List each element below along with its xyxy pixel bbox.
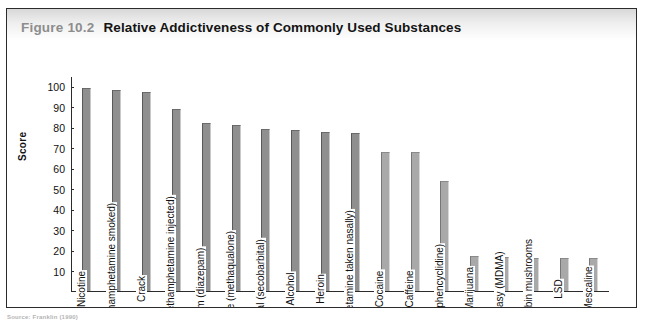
x-tick-label: Heroin [315,273,326,304]
bar-slot: Cocaine [370,77,400,291]
bar-slot: PCP (phencyclidine) [430,77,460,291]
x-tick-label: Alcohol [285,272,296,307]
y-tick-60: 60 [53,163,71,175]
x-tick-label: Ecstasy (MDMA) [494,251,505,309]
y-tick-80: 80 [53,122,71,134]
bar-slot: Heroin [311,77,341,291]
x-tick-label: Crack [136,275,147,303]
bar [142,92,151,291]
bar-slot: LSD [549,77,579,291]
y-tick-30: 30 [53,225,71,237]
bar-slot: Caffeine [400,77,430,291]
source-note: Source: Franklin (1990) [7,314,78,320]
bar-slot: Nicotine [72,77,102,291]
x-tick-label: Crank (amphetamine taken nasally) [344,209,355,308]
bar-slot: Ecstasy (MDMA) [490,77,520,291]
bar-slot: Seconal (secobarbital) [251,77,281,291]
x-tick-label: Quaalude (methaqualone) [225,230,236,308]
y-tick-20: 20 [53,245,71,257]
x-tick-label: Marijuana [464,266,475,308]
y-tick-70: 70 [53,143,71,155]
bar-slot: Crank (amphetamine taken nasally) [340,77,370,291]
page-title: Relative Addictiveness of Commonly Used … [103,20,461,35]
y-tick-10: 10 [53,266,71,278]
x-tick-label: Psilocybin mushrooms [523,238,534,308]
y-axis-label: Score [17,132,28,161]
figure-panel: Figure 10.2Relative Addictiveness of Com… [6,8,637,308]
bar-slot: Crack [132,77,162,291]
x-tick-label: Seconal (secobarbital) [255,238,266,308]
x-tick-label: Cocaine [374,270,385,308]
bar [321,132,330,291]
figure-number: Figure 10.2 [21,20,94,35]
bar-slot: Quaalude (methaqualone) [221,77,251,291]
x-tick-label: PCP (phencyclidine) [434,243,445,308]
bar-slot: Marijuana [460,77,490,291]
bar-slot: Crystal meth (methamphetamine injected) [161,77,191,291]
x-tick-label: Valium (diazepam) [195,247,206,308]
x-tick-label: Ice, glass (methamphetamine smoked) [106,202,117,308]
bar [291,130,300,291]
bar-slot: Alcohol [281,77,311,291]
bar [82,88,91,291]
x-tick-label: Crystal meth (methamphetamine injected) [165,195,176,308]
bar-slot: Mescaline [579,77,609,291]
bar-slot: Valium (diazepam) [191,77,221,291]
y-tick-50: 50 [53,184,71,196]
x-tick-label: Mescaline [583,265,594,308]
y-tick-90: 90 [53,102,71,114]
x-tick-label: LSD [553,278,564,299]
plot-area: 102030405060708090100 NicotineIce, glass… [71,77,609,292]
bar-slot: Ice, glass (methamphetamine smoked) [102,77,132,291]
y-tick-40: 40 [53,204,71,216]
x-tick-label: Nicotine [76,270,87,308]
bar-slot: Psilocybin mushrooms [519,77,549,291]
bar-series: NicotineIce, glass (methamphetamine smok… [72,77,609,291]
y-tick-100: 100 [47,81,71,93]
figure-title-row: Figure 10.2Relative Addictiveness of Com… [21,18,461,36]
x-tick-label: Caffeine [404,269,415,308]
